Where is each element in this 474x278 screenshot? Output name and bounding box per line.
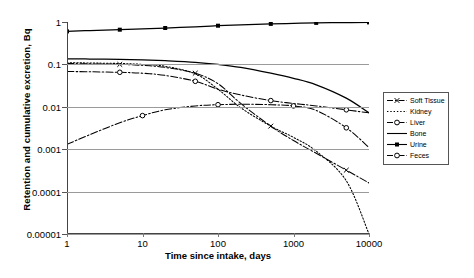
legend-symbol-solid-filledsquare <box>386 139 408 150</box>
y-tick-label: 0.0001 <box>32 186 61 197</box>
gridline <box>67 64 369 65</box>
y-tick-label: 0.00001 <box>27 229 61 240</box>
y-axis-title: Retention and cumulative excretion, Bq <box>21 10 32 230</box>
y-tick <box>62 149 67 150</box>
y-tick <box>62 107 67 108</box>
legend-item-bone: Bone <box>386 128 446 139</box>
legend-label: Kidney <box>408 106 431 117</box>
x-tick-label: 100 <box>210 238 226 249</box>
x-tick <box>67 233 68 237</box>
x-tick <box>294 233 295 237</box>
gridline <box>67 192 369 193</box>
legend-item-liver: Liver <box>386 117 446 128</box>
legend-symbol-dashdot-opencircle <box>386 117 408 128</box>
legend-symbol-solid <box>386 128 408 139</box>
y-tick-label: 0.1 <box>48 59 61 70</box>
y-axis-line <box>67 22 68 234</box>
y-tick <box>62 22 67 23</box>
legend-label: Bone <box>408 128 426 139</box>
series-feces <box>67 102 369 147</box>
legend-symbol-dotted <box>386 106 408 117</box>
x-tick-label: 1 <box>64 238 69 249</box>
legend-item-urine: Urine <box>386 139 446 150</box>
x-tick-label: 10 <box>137 238 148 249</box>
plot-area: 10.10.010.0010.00010.00001 1101001000100… <box>67 22 369 234</box>
series-urine <box>67 22 369 33</box>
series-soft-tissue <box>67 62 369 183</box>
y-tick <box>62 64 67 65</box>
x-tick-label: 1000 <box>283 238 304 249</box>
x-tick-label: 10000 <box>356 238 382 249</box>
chart-legend: Soft TissueKidneyLiverBoneUrineFeces <box>383 92 449 165</box>
y-tick-label: 0.001 <box>37 144 61 155</box>
gridline <box>67 107 369 108</box>
gridline <box>67 149 369 150</box>
x-axis-title: Time since intake, days <box>67 250 369 261</box>
data-curves <box>67 22 369 234</box>
y-tick-label: 0.01 <box>43 101 62 112</box>
legend-item-feces: Feces <box>386 150 446 161</box>
x-tick <box>369 233 370 237</box>
legend-label: Liver <box>408 117 425 128</box>
x-tick <box>143 233 144 237</box>
legend-symbol-dashdot-cross <box>386 95 408 106</box>
legend-item-kidney: Kidney <box>386 106 446 117</box>
legend-label: Soft Tissue <box>408 95 445 106</box>
legend-symbol-dashdot-opencircle <box>386 150 408 161</box>
y-tick-label: 1 <box>56 17 61 28</box>
legend-label: Feces <box>408 150 429 161</box>
x-tick <box>218 233 219 237</box>
chart-figure: Retention and cumulative excretion, Bq 1… <box>0 0 474 278</box>
legend-label: Urine <box>408 139 427 150</box>
legend-item-soft-tissue: Soft Tissue <box>386 95 446 106</box>
y-tick <box>62 192 67 193</box>
